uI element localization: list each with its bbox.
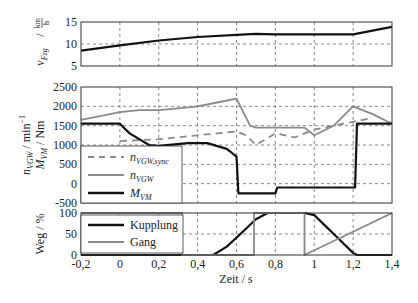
legend-label: Kupplung [130,218,178,232]
speed-plot: 51015 [65,15,392,73]
x-tick-label: 0,4 [190,257,205,271]
y-tick-label: 500 [59,157,77,171]
speed-torque-plot: -50005001000150020002500nVGW,syncnVGWMVM [53,80,392,210]
x-axis-label: Zeit / s [219,272,253,286]
y-tick-label: 1000 [53,138,77,152]
svg-text:Weg / %: Weg / % [33,213,47,254]
svg-text:h: h [42,21,51,25]
series-n-vgw-sync [120,118,373,145]
x-tick-label: 1,2 [346,257,361,271]
x-tick-label: 1,4 [385,257,400,271]
y-tick-label: 1500 [53,119,77,133]
y-tick-label: 100 [59,206,77,220]
chart-figure: 51015 -50005001000150020002500nVGW,syncn… [0,0,418,303]
y-axis-labels: vFzg / km h nVGW / min−1 MVM / Nm Weg / … [18,17,51,254]
y-tick-label: 5 [71,59,77,73]
x-tick-label: 0 [117,257,123,271]
clutch-gear-travel-plot: 050100-0,200,20,40,60,811,21,4KupplungGa… [59,206,400,271]
x-tick-label: 0,6 [229,257,244,271]
x-tick-label: -0,2 [72,257,91,271]
svg-text:MVM / Nm: MVM / Nm [33,120,49,171]
legend-label: Gang [130,235,156,249]
y-tick-label: 2000 [53,99,77,113]
legend-travel: KupplungGang [81,215,183,253]
speed-torque-ylabel: nVGW / min−1 MVM / Nm [18,115,49,175]
travel-ylabel: Weg / % [33,213,47,254]
y-tick-label: 50 [65,227,77,241]
y-tick-label: 0 [71,177,77,191]
x-tick-label: 0,8 [268,257,283,271]
svg-text:/: / [33,33,47,37]
speed-ylabel: vFzg / km h [33,17,51,66]
x-tick-label: 1 [311,257,317,271]
svg-text:vFzg: vFzg [33,48,49,65]
legend-speed-torque: nVGW,syncnVGWMVM [81,146,182,203]
y-tick-label: 10 [65,37,77,51]
y-tick-label: 15 [65,15,77,29]
svg-text:km: km [33,17,42,28]
y-tick-label: 2500 [53,80,77,94]
x-tick-label: 0,2 [151,257,166,271]
